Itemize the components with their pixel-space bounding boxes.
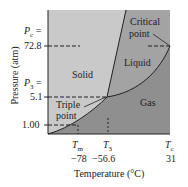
critical-label-2: point <box>129 29 150 39</box>
triple-label-2: point <box>56 111 77 121</box>
tc-value: 31 <box>166 154 176 164</box>
tm-value: −78 <box>71 154 87 164</box>
p3-value: 5.1 <box>30 92 43 102</box>
pc-value: 72.8 <box>24 41 42 51</box>
solid-label: Solid <box>72 70 93 80</box>
tc-label: Tc <box>165 140 174 153</box>
critical-label-1: Critical <box>130 17 160 27</box>
x-axis-label: Temperature (°C) <box>74 169 144 179</box>
y-axis-label: Pressure (atm) <box>9 26 20 126</box>
p1-value: 1.00 <box>22 120 40 130</box>
t3-label: T3 <box>103 140 112 153</box>
liquid-label: Liquid <box>124 58 151 68</box>
p3-label: P3 = <box>24 78 42 91</box>
pc-label: Pc = <box>24 26 41 39</box>
t3-value: −56.6 <box>92 154 115 164</box>
triple-label-1: Triple <box>56 100 80 110</box>
gas-label: Gas <box>140 98 156 108</box>
tm-label: Tm <box>72 140 83 153</box>
